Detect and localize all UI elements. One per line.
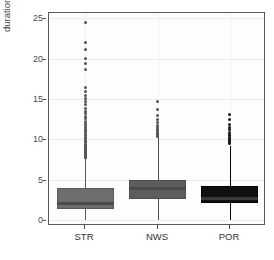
y-tick-label: 10: [23, 135, 43, 143]
outlier-point: [228, 142, 231, 145]
box-iqr: [201, 186, 258, 203]
plot-panel: [48, 12, 265, 225]
y-tick-mark: [43, 59, 46, 60]
y-tick-mark: [43, 139, 46, 140]
y-tick-label: 25: [23, 14, 43, 22]
y-tick-mark: [43, 18, 46, 19]
y-tick-label: 20: [23, 55, 43, 63]
boxplot-figure: duration (s) 0510152025 STRNWSPOR: [0, 0, 274, 260]
whisker-line: [230, 146, 231, 219]
x-tick-mark: [229, 225, 230, 229]
median-line: [201, 197, 258, 200]
y-tick-mark: [43, 220, 46, 221]
y-tick-label: 0: [23, 216, 43, 224]
y-tick-mark: [43, 99, 46, 100]
x-tick-mark: [157, 225, 158, 229]
y-axis-tick-labels: 0510152025: [21, 0, 43, 260]
x-tick-mark: [84, 225, 85, 229]
y-axis-title: duration (s): [0, 0, 15, 16]
boxplot-group-por: [49, 13, 266, 224]
y-axis-title-text: duration (s): [0, 0, 15, 121]
outlier-point: [228, 118, 231, 121]
x-tick-label-str: STR: [54, 231, 114, 243]
x-tick-label-nws: NWS: [127, 231, 187, 243]
y-tick-label: 5: [23, 176, 43, 184]
y-tick-mark: [43, 180, 46, 181]
y-tick-label: 15: [23, 95, 43, 103]
outlier-point: [228, 113, 231, 116]
x-tick-label-por: POR: [199, 231, 259, 243]
